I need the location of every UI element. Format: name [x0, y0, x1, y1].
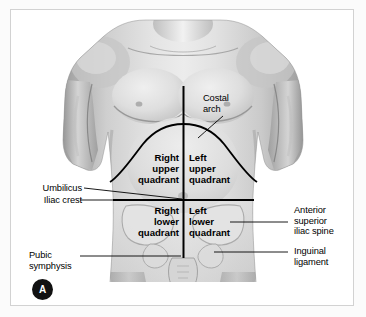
label-iliac-crest: Iliac crest — [6, 195, 82, 206]
quadrant-label-left-upper: Left upper quadrant — [189, 152, 261, 186]
quadrant-label-right-upper: Right upper quadrant — [108, 152, 179, 186]
label-anterior-superior-iliac-spine: Anterior superior iliac spine — [294, 205, 334, 237]
label-inguinal-ligament: Inguinal ligament — [294, 246, 328, 267]
figure-container: Costal arch Umbilicus Iliac crest Pubic … — [0, 0, 366, 317]
label-costal-arch: Costal arch — [203, 93, 229, 114]
label-pubic-symphysis: Pubic symphysis — [29, 250, 72, 271]
panel-letter-badge: A — [32, 279, 53, 300]
quadrant-label-left-lower: Left lower quadrant — [189, 205, 261, 239]
label-umbilicus: Umbilicus — [10, 183, 82, 194]
quadrant-label-right-lower: Right lower quadrant — [108, 205, 179, 239]
